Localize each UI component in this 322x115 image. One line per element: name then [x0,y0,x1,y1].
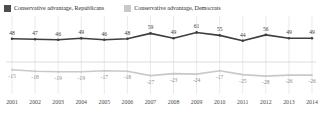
data-point [311,37,314,40]
data-point [196,73,198,75]
value-label-republicans: 49 [286,29,292,35]
data-point [265,75,267,77]
data-point [103,70,105,72]
chart-legend: Conservative advantage, Republicans Cons… [4,2,318,14]
x-axis-tick: 2011 [237,98,248,106]
data-point [103,38,106,41]
x-axis-tick: 2003 [52,98,64,106]
data-point [126,38,129,41]
data-point [126,70,128,72]
legend-item-democrats: Conservative advantage, Democrats [124,5,220,12]
x-axis: 2001200220032004200520062007200820092010… [0,96,322,110]
legend-item-republicans: Conservative advantage, Republicans [4,5,104,12]
value-label-republicans: 46 [102,31,108,37]
data-point [149,32,152,35]
data-point [311,74,313,76]
data-point [195,31,198,34]
legend-label-republicans: Conservative advantage, Republicans [14,5,104,12]
value-label-democrats: -18 [124,74,131,80]
data-point [57,38,60,41]
data-point [34,38,37,41]
value-label-democrats: -27 [147,79,154,85]
data-point [11,38,14,41]
x-axis-tick: 2006 [122,98,134,106]
value-label-democrats: -18 [31,74,38,80]
x-axis-tick: 2013 [283,98,295,106]
x-axis-tick: 2001 [6,98,18,106]
value-label-democrats: -26 [308,78,315,84]
value-label-democrats: -17 [216,74,223,80]
x-axis-tick: 2012 [260,98,272,106]
line-chart: Conservative advantage, Republicans Cons… [0,0,322,115]
x-axis-tick: 2010 [214,98,226,106]
value-label-republicans: 49 [171,29,177,35]
x-axis-tick: 2009 [191,98,203,106]
data-point [218,34,221,37]
value-label-republicans: 44 [240,32,246,38]
data-point [57,71,59,73]
value-label-democrats: -17 [101,74,108,80]
value-label-republicans: 61 [194,23,200,29]
value-label-republicans: 48 [125,30,131,36]
data-point [219,70,221,72]
legend-swatch-democrats-icon [124,5,131,12]
value-label-republicans: 49 [78,29,84,35]
data-point [80,37,83,40]
data-point [80,71,82,73]
value-label-democrats: -24 [193,77,200,83]
value-label-democrats: -19 [54,75,61,81]
data-point [11,69,13,71]
data-point [241,39,244,42]
x-axis-tick: 2007 [145,98,157,106]
value-label-republicans: 48 [9,30,15,36]
x-axis-tick: 2014 [306,98,318,106]
value-label-democrats: -19 [77,75,84,81]
value-label-democrats: -15 [8,73,15,79]
x-axis-tick: 2005 [99,98,111,106]
data-point [242,74,244,76]
legend-swatch-republicans-icon [4,5,11,12]
value-label-republicans: 59 [148,24,154,30]
data-point [34,70,36,72]
value-label-republicans: 55 [217,26,223,32]
value-label-republicans: 49 [309,29,315,35]
data-point [149,75,151,77]
value-label-republicans: 56 [263,26,269,32]
data-point [172,37,175,40]
data-point [288,74,290,76]
value-label-democrats: -26 [285,78,292,84]
x-axis-tick: 2004 [75,98,87,106]
data-point [173,73,175,75]
plot-svg [0,16,322,94]
value-label-democrats: -23 [170,77,177,83]
legend-label-democrats: Conservative advantage, Democrats [134,5,220,12]
value-label-democrats: -25 [239,78,246,84]
plot-area: 4847464946485949615544564949-15-18-19-19… [0,16,322,94]
value-label-republicans: 46 [55,31,61,37]
data-point [288,37,291,40]
x-axis-tick: 2002 [29,98,41,106]
value-label-democrats: -28 [262,79,269,85]
x-axis-tick: 2008 [168,98,180,106]
data-point [265,34,268,37]
value-label-republicans: 47 [32,30,38,36]
